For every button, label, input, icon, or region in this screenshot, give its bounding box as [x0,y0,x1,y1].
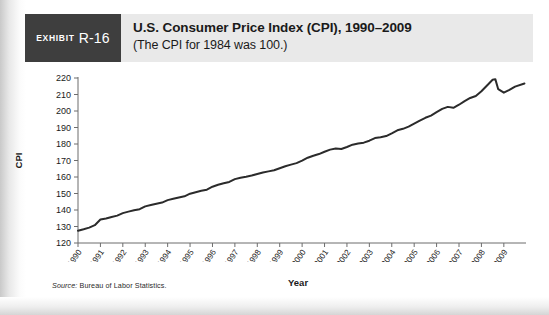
cpi-data-line [78,79,524,231]
y-tick-label: 220 [56,73,71,83]
x-tick-label: 1996 [200,248,218,262]
page-edge-shadow-bottom [0,297,549,315]
x-tick-label: 2005 [402,248,420,262]
x-axis-tick-labels: 1990199119921993199419951996199719981999… [66,248,510,262]
x-tick-label: 2000 [290,248,308,262]
x-tick-label: 1994 [155,248,173,262]
x-tick-label: 1992 [111,248,129,262]
x-tick-label: 2008 [469,248,487,262]
chart-plot-area: 120130140150160170180190200210220 199019… [0,62,549,262]
x-tick-label: 1995 [178,248,196,262]
x-axis-title: Year [288,277,308,288]
exhibit-badge: Exhibit R-16 [25,14,121,62]
x-tick-label: 1990 [66,248,84,262]
x-tick-label: 1998 [245,248,263,262]
y-tick-label: 170 [56,156,71,166]
chart-subtitle: (The CPI for 1984 was 100.) [133,37,412,54]
source-note: Source: Bureau of Labor Statistics. [52,281,167,290]
x-tick-label: 2002 [335,248,353,262]
y-axis-tick-marks [74,78,78,243]
chart-title: U.S. Consumer Price Index (CPI), 1990–20… [133,19,412,37]
y-axis-tick-labels: 120130140150160170180190200210220 [56,73,71,248]
y-tick-label: 190 [56,123,71,133]
y-tick-label: 200 [56,106,71,116]
cpi-line-chart: 120130140150160170180190200210220 199019… [0,62,549,262]
x-tick-label: 2006 [424,248,442,262]
source-text: Bureau of Labor Statistics. [80,281,167,290]
x-axis-tick-marks [78,243,504,247]
y-tick-label: 180 [56,139,71,149]
y-tick-label: 160 [56,172,71,182]
y-axis-title: CPI [13,153,24,169]
y-tick-label: 150 [56,189,71,199]
x-tick-label: 1991 [88,248,106,262]
exhibit-badge-word: Exhibit [36,33,74,43]
title-block: U.S. Consumer Price Index (CPI), 1990–20… [121,14,412,62]
y-tick-label: 140 [56,205,71,215]
x-tick-label: 2001 [312,248,330,262]
exhibit-header: Exhibit R-16 U.S. Consumer Price Index (… [25,14,533,62]
x-tick-label: 2007 [447,248,465,262]
x-tick-label: 1999 [268,248,286,262]
source-label: Source: [52,281,77,290]
x-tick-label: 2003 [357,248,375,262]
x-tick-label: 2009 [492,248,510,262]
exhibit-figure: Exhibit R-16 U.S. Consumer Price Index (… [0,0,549,315]
x-tick-label: 2004 [380,248,398,262]
x-tick-label: 1997 [223,248,241,262]
y-tick-label: 210 [56,90,71,100]
y-tick-label: 120 [56,238,71,248]
x-tick-label: 1993 [133,248,151,262]
y-tick-label: 130 [56,222,71,232]
exhibit-badge-number: R-16 [79,30,110,46]
